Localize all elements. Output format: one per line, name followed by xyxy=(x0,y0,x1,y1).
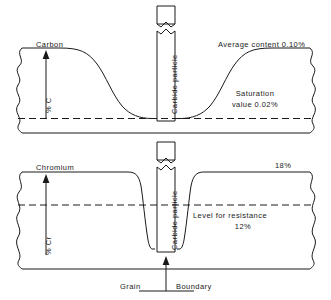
chromium-resistance-label-line2: 12% xyxy=(193,222,293,232)
carbide-particle-label-upper: Carbide particle xyxy=(170,54,180,114)
carbon-axis-arrow-head xyxy=(43,50,50,59)
chromium-axis-arrow-head xyxy=(43,174,50,183)
carbide-column-top-break-upper xyxy=(157,29,175,34)
carbon-saturation-label-line2: value 0.02% xyxy=(207,100,303,110)
carbon-element-label: Carbon xyxy=(36,40,63,50)
carbon-saturation-label-line1: Saturation xyxy=(207,89,303,99)
carbon-left-break-edge xyxy=(17,48,22,133)
chromium-curve-left xyxy=(22,172,155,249)
carbon-y-axis-label: % C xyxy=(44,97,54,113)
grain-boundary-arrow-head xyxy=(163,256,170,265)
carbide-column-top-break-lower xyxy=(157,165,175,170)
diagram-root: Carbon Average content 0.10% Saturation … xyxy=(0,0,331,300)
chromium-plateau-label: 18% xyxy=(275,161,291,171)
chromium-resistance-label-line1: Level for resistance xyxy=(193,211,267,221)
carbon-right-break-edge xyxy=(310,48,315,133)
carbon-curve-left xyxy=(22,48,157,119)
grain-label: Grain xyxy=(120,282,141,292)
chromium-element-label: Chromium xyxy=(36,163,74,173)
boundary-label: Boundary xyxy=(176,282,212,292)
carbide-particle-label-lower: Carbide particle xyxy=(170,190,180,250)
chromium-y-axis-label: % Cr xyxy=(44,237,54,255)
lower-panel-chromium xyxy=(17,172,316,269)
chromium-left-break-edge xyxy=(17,172,22,269)
carbon-average-content-label: Average content 0.10% xyxy=(218,40,305,50)
chromium-right-break-edge xyxy=(310,172,315,269)
